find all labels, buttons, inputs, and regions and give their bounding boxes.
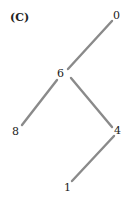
edge-6-4 xyxy=(71,78,112,127)
node-0: 0 xyxy=(113,9,120,22)
node-6: 6 xyxy=(57,67,64,80)
node-8: 8 xyxy=(12,125,19,138)
node-4: 4 xyxy=(114,124,121,137)
tree-diagram: (C) 0 6 8 4 1 xyxy=(0,0,132,197)
edge-4-1 xyxy=(72,136,114,181)
node-1: 1 xyxy=(64,181,71,194)
panel-label: (C) xyxy=(10,11,29,24)
edge-6-8 xyxy=(22,80,57,125)
edge-0-6 xyxy=(68,21,112,69)
